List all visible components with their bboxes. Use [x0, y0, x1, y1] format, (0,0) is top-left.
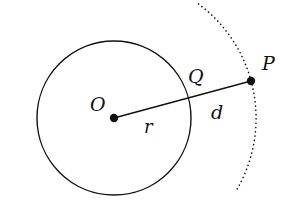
geometry-figure: O r Q d P [0, 0, 302, 209]
label-p: P [261, 52, 276, 74]
point-o [110, 114, 118, 122]
label-d: d [211, 101, 223, 123]
label-o: O [90, 93, 106, 115]
label-r: r [144, 116, 154, 137]
point-p [247, 77, 255, 85]
diagram-canvas: O r Q d P [0, 0, 302, 209]
segment-op [114, 81, 251, 118]
label-q: Q [188, 65, 204, 87]
dotted-arc [199, 4, 257, 191]
